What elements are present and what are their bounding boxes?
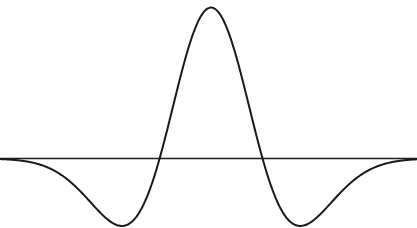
plot-background — [0, 0, 417, 228]
plot-canvas — [0, 0, 417, 228]
wavelet-figure: psi(t) = (1 - t^2) * exp(-t^2 / 2) — [0, 0, 417, 228]
